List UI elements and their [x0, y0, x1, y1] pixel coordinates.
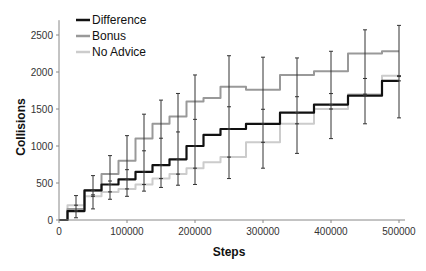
y-tick-label: 2500	[31, 30, 54, 41]
x-axis-title: Steps	[213, 245, 246, 259]
x-tick-label: 200000	[178, 226, 212, 237]
y-tick-label: 1500	[31, 104, 54, 115]
y-tick-label: 0	[47, 215, 53, 226]
x-tick-label: 400000	[314, 226, 348, 237]
y-tick-label: 2000	[31, 67, 54, 78]
legend-label-bonus: Bonus	[92, 29, 126, 43]
y-axis-title: Collisions	[14, 98, 28, 156]
line-chart: 0500100015002000250001000002000003000004…	[0, 0, 426, 271]
x-tick-label: 100000	[110, 226, 144, 237]
legend-label-no-advice: No Advice	[92, 45, 146, 59]
x-tick-label: 300000	[246, 226, 280, 237]
x-tick-label: 500000	[382, 226, 416, 237]
y-tick-label: 1000	[31, 141, 54, 152]
legend-label-difference: Difference	[92, 13, 147, 27]
x-tick-label: 0	[56, 226, 62, 237]
y-tick-label: 500	[36, 178, 53, 189]
legend: Difference Bonus No Advice	[76, 13, 147, 59]
